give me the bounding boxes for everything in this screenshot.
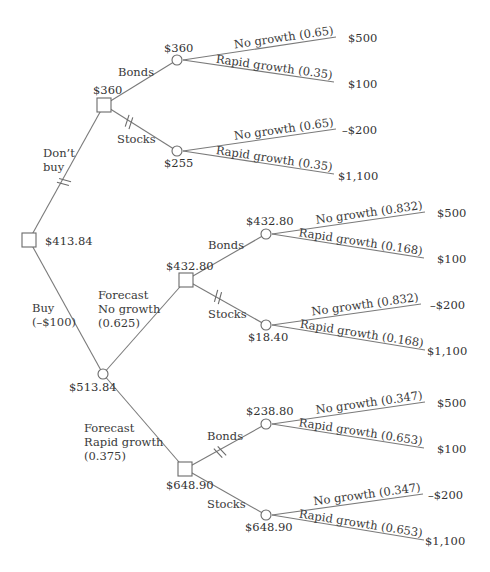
pruned-branch-mark-icon: [57, 178, 71, 185]
payoff-value: $500: [348, 31, 377, 45]
payoff-value: –$200: [428, 488, 463, 502]
payoff-value: $100: [348, 77, 377, 91]
chance-node-circle-icon: [261, 320, 271, 330]
chance-node-circle-icon: [172, 146, 182, 156]
payoff-value: $100: [437, 442, 466, 456]
node-expected-value: $255: [164, 156, 193, 170]
decision-node-square-icon: [97, 98, 111, 112]
outcome-probability-label: No growth (0.65): [233, 115, 335, 143]
decision-node-square-icon: [178, 462, 192, 476]
decision-node-square-icon: [179, 273, 193, 287]
node-expected-value: $648.90: [245, 520, 293, 534]
outcomes-layer: [183, 37, 425, 540]
outcome-probability-label: No growth (0.65): [233, 23, 334, 51]
chance-node-circle-icon: [261, 510, 271, 520]
branch-label: Rapid growth: [84, 435, 164, 449]
node-expected-value: $360: [93, 83, 122, 97]
outcome-probability-label: Rapid growth (0.653): [298, 415, 424, 448]
node-expected-value: $648.90: [166, 478, 214, 492]
payoff-value: –$200: [342, 123, 377, 137]
payoff-value: $500: [437, 206, 466, 220]
branch-label: Forecast: [98, 288, 149, 302]
chance-node-circle-icon: [98, 369, 108, 379]
branch-label: Bonds: [208, 238, 244, 252]
node-expected-value: $18.40: [248, 330, 288, 344]
branch-label: No growth: [98, 302, 161, 316]
branch-label: Forecast: [84, 421, 135, 435]
outcome-probability-label: Rapid growth (0.35): [215, 143, 334, 174]
branch-label: (0.625): [98, 316, 140, 330]
branch-label: Stocks: [117, 132, 156, 146]
branch-label: Don’t: [43, 146, 75, 160]
outcome-probability-label: Rapid growth (0.168): [298, 225, 424, 258]
node-expected-value: $432.80: [166, 259, 214, 273]
payoff-value: $500: [437, 396, 466, 410]
payoff-value: $100: [437, 252, 466, 266]
payoff-value: $1,100: [425, 534, 465, 548]
branch-label: Bonds: [207, 429, 243, 443]
pruned-branch-mark-icon: [125, 115, 133, 129]
decision-node-square-icon: [22, 233, 36, 247]
payoff-value: $1,100: [338, 169, 378, 183]
outcome-probability-label: No growth (0.347): [313, 480, 422, 508]
node-expected-value: $238.80: [246, 404, 294, 418]
branch-label: buy: [43, 160, 65, 174]
branch-label: Bonds: [118, 65, 154, 79]
chance-node-circle-icon: [261, 419, 271, 429]
outcome-probability-label: No growth (0.832): [311, 290, 420, 318]
branch-dontbuy: [29, 105, 104, 240]
outcome-probability-label: Rapid growth (0.168): [299, 317, 425, 350]
branch-label: (–$100): [32, 315, 76, 329]
outcome-probability-label: No growth (0.832): [315, 198, 424, 227]
node-expected-value: $432.80: [246, 214, 294, 228]
chance-node-circle-icon: [261, 229, 271, 239]
branch-label: Stocks: [208, 307, 247, 321]
branch-label: (0.375): [84, 449, 126, 463]
outcome-probability-label: Rapid growth (0.653): [298, 507, 424, 540]
node-expected-value: $413.84: [45, 234, 93, 248]
payoff-value: –$200: [430, 298, 465, 312]
branch-label: Buy: [32, 301, 55, 315]
chance-node-circle-icon: [172, 55, 182, 65]
node-expected-value: $513.84: [69, 380, 117, 394]
pruned-branch-mark-icon: [214, 290, 221, 304]
branch-label: Stocks: [207, 497, 246, 511]
decision-tree-diagram: Don’tbuyBuy(–$100)BondsStocksForecastNo …: [0, 0, 490, 572]
outcome-probability-label: No growth (0.347): [315, 388, 424, 417]
node-expected-value: $360: [164, 41, 193, 55]
payoff-value: $1,100: [427, 344, 467, 358]
outcome-probability-label: Rapid growth (0.35): [215, 52, 334, 82]
